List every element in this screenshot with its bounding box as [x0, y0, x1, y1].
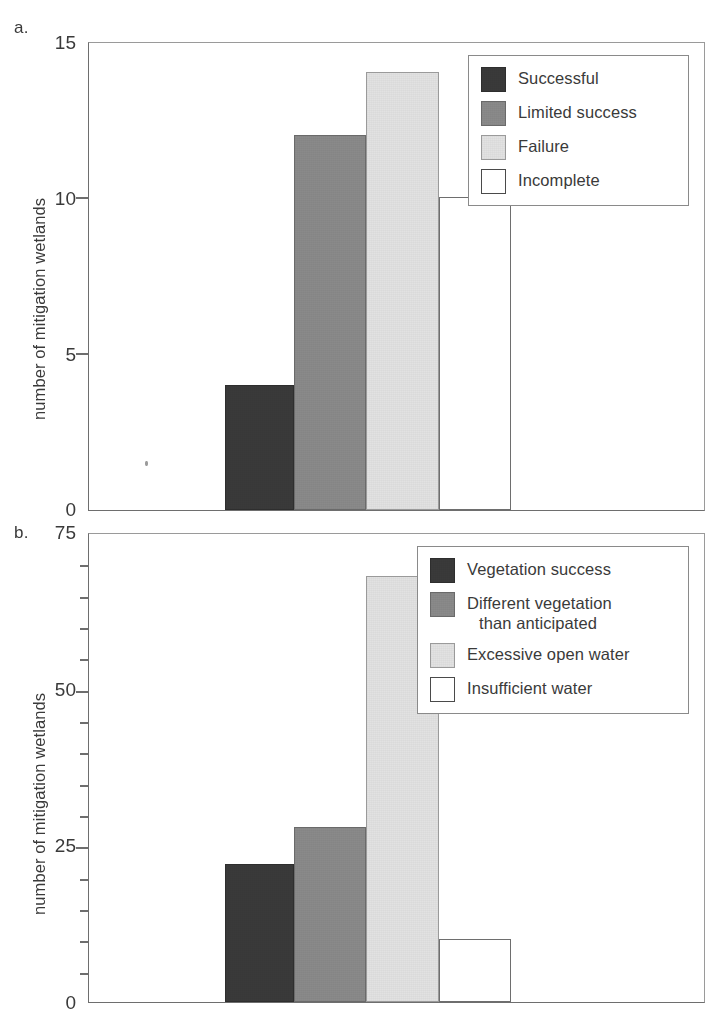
panel-a-ytick-label-10: 10 [28, 189, 76, 208]
legend-swatch-incomplete [481, 169, 506, 194]
panel-b-ytick-label-25: 25 [28, 836, 76, 855]
panel-a: a. number of mitigation wetlands 15 10 5… [0, 0, 721, 525]
panel-a-letter: a. [14, 18, 29, 38]
legend-swatch-excessive-open-water [430, 643, 455, 668]
legend-label-vegetation-success: Vegetation success [467, 558, 611, 579]
legend-item-excessive-open-water[interactable]: Excessive open water [430, 643, 674, 668]
scan-speck [145, 461, 148, 466]
panel-a-y-axis-title: number of mitigation wetlands [30, 198, 49, 420]
panel-b-tick-60 [80, 628, 89, 630]
panel-b-tick-70 [80, 565, 89, 567]
panel-a-ytick-label-15: 15 [28, 33, 76, 52]
legend-item-limited-success[interactable]: Limited success [481, 101, 674, 126]
panel-b-tick-65 [80, 597, 89, 599]
panel-b-tick-20 [80, 879, 89, 881]
legend-label-failure: Failure [518, 135, 569, 156]
panel-b-tick-40 [80, 753, 89, 755]
legend-label-incomplete: Incomplete [518, 169, 600, 190]
panel-b-ytick-label-0: 0 [28, 993, 76, 1012]
legend-swatch-failure [481, 135, 506, 160]
panel-a-bar-limited-success[interactable] [294, 135, 366, 510]
panel-b-bar-vegetation-success[interactable] [225, 864, 294, 1002]
legend-item-incomplete[interactable]: Incomplete [481, 169, 674, 194]
legend-swatch-successful [481, 67, 506, 92]
legend-label-successful: Successful [518, 67, 599, 88]
panel-b-ytick-label-50: 50 [28, 680, 76, 699]
panel-b-plot-area: Vegetation success Different vegetationt… [88, 533, 705, 1003]
legend-item-failure[interactable]: Failure [481, 135, 674, 160]
legend-label-excessive-open-water: Excessive open water [467, 643, 630, 664]
panel-b-ytick-label-75: 75 [28, 523, 76, 542]
panel-b-bar-insufficient-water[interactable] [439, 939, 511, 1002]
panel-b-tick-50 [76, 691, 89, 693]
panel-a-plot-area: Successful Limited success Failure Incom… [88, 42, 705, 511]
panel-a-tick-5 [76, 353, 89, 355]
panel-b-tick-5 [80, 973, 89, 975]
panel-a-ytick-label-5: 5 [28, 345, 76, 364]
panel-b-y-axis-title: number of mitigation wetlands [30, 693, 49, 915]
legend-item-vegetation-success[interactable]: Vegetation success [430, 558, 674, 583]
legend-label-insufficient-water: Insufficient water [467, 677, 592, 698]
legend-label-different-vegetation-line1: Different vegetation [467, 594, 612, 612]
panel-a-bar-successful[interactable] [225, 385, 294, 510]
panel-a-bar-failure[interactable] [366, 72, 439, 510]
panel-b-tick-25 [76, 847, 89, 849]
panel-b-tick-10 [80, 941, 89, 943]
panel-b-tick-35 [80, 785, 89, 787]
panel-b-letter: b. [14, 523, 29, 543]
panel-a-legend: Successful Limited success Failure Incom… [468, 55, 689, 206]
legend-swatch-insufficient-water [430, 677, 455, 702]
panel-b-tick-30 [80, 816, 89, 818]
panel-b-tick-55 [80, 659, 89, 661]
panel-b: b. number of mitigation wetlands 75 50 2… [0, 515, 721, 1023]
legend-item-insufficient-water[interactable]: Insufficient water [430, 677, 674, 702]
figure-two-panel-bar-charts: a. number of mitigation wetlands 15 10 5… [0, 0, 721, 1023]
legend-label-different-vegetation-line2: than anticipated [467, 613, 612, 633]
legend-label-different-vegetation: Different vegetationthan anticipated [467, 592, 612, 634]
panel-b-tick-15 [80, 910, 89, 912]
legend-item-different-vegetation[interactable]: Different vegetationthan anticipated [430, 592, 674, 634]
legend-swatch-different-vegetation [430, 592, 455, 617]
panel-a-bar-incomplete[interactable] [439, 197, 511, 510]
panel-a-tick-10 [76, 197, 89, 199]
legend-swatch-limited-success [481, 101, 506, 126]
legend-label-limited-success: Limited success [518, 101, 637, 122]
legend-item-successful[interactable]: Successful [481, 67, 674, 92]
panel-b-legend: Vegetation success Different vegetationt… [417, 546, 689, 714]
panel-b-bar-different-vegetation[interactable] [294, 827, 366, 1002]
legend-swatch-vegetation-success [430, 558, 455, 583]
panel-b-tick-45 [80, 722, 89, 724]
